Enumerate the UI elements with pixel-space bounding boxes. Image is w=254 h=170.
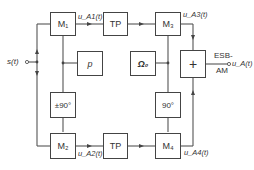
phase-shifter-pm90-block: ±90° (50, 92, 76, 118)
oscillator-omega0-label: Ω₀ (138, 59, 149, 69)
mixer-m3-block: M₃ (155, 12, 181, 36)
mixer-m3-label: M₃ (162, 19, 173, 29)
output-caption-line1: ESB- (214, 52, 233, 60)
signal-ua4-label: u_A4(t) (184, 149, 209, 157)
mixer-m4-label: M₄ (162, 141, 173, 151)
input-signal-label: s(t) (7, 58, 19, 66)
signal-ua2-label: u_A2(t) (78, 150, 103, 158)
mixer-m2-block: M₂ (50, 133, 76, 159)
mixer-m2-label: M₂ (58, 141, 69, 151)
lowpass-top-label: TP (110, 19, 122, 29)
mixer-m4-block: M₄ (155, 133, 181, 159)
summer-block: + (180, 50, 206, 78)
oscillator-p-block: p (77, 51, 103, 76)
phase-shifter-90-label: 90° (162, 101, 174, 110)
mixer-m1-label: M₁ (58, 19, 69, 29)
lowpass-bottom-block: TP (103, 133, 128, 159)
signal-ua3-label: u_A3(t) (183, 11, 208, 19)
oscillator-omega0-block: Ω₀ (130, 51, 156, 76)
lowpass-bottom-label: TP (110, 141, 122, 151)
mixer-m1-block: M₁ (50, 12, 76, 36)
output-signal-label: u_A(t) (232, 60, 252, 68)
phase-shifter-90-block: 90° (155, 92, 181, 118)
plus-icon: + (189, 56, 197, 72)
phase-shifter-pm90-label: ±90° (55, 101, 72, 110)
signal-ua1-label: u_A1(t) (78, 13, 103, 21)
lowpass-top-block: TP (103, 12, 128, 36)
oscillator-p-label: p (87, 59, 92, 69)
output-caption-line2: AM (216, 67, 228, 75)
